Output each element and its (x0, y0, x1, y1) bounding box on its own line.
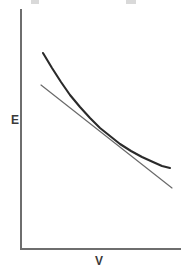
energy-curve (43, 53, 170, 168)
data-series (41, 53, 172, 188)
plot-area (0, 0, 188, 271)
y-axis-label: E (11, 114, 19, 126)
tangent-line (41, 85, 172, 188)
figure-container: E V (0, 0, 188, 271)
x-axis-label: V (95, 255, 103, 267)
